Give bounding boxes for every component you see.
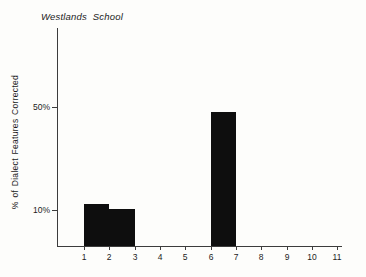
y-tick-label: 10%: [20, 205, 50, 215]
bar: [84, 204, 109, 246]
y-axis-line: [57, 28, 58, 247]
y-axis-label: % of Dialect Features Corrected: [10, 75, 20, 209]
x-tick-mark: [109, 246, 110, 250]
x-tick-label: 11: [329, 252, 345, 262]
x-tick-mark: [287, 246, 288, 250]
x-tick-label: 3: [127, 252, 143, 262]
x-tick-label: 10: [304, 252, 320, 262]
x-tick-mark: [261, 246, 262, 250]
x-tick-mark: [185, 246, 186, 250]
x-tick-label: 6: [203, 252, 219, 262]
bar: [109, 209, 135, 246]
x-tick-mark: [160, 246, 161, 250]
x-tick-label: 5: [177, 252, 193, 262]
x-axis-line: [57, 246, 342, 247]
x-tick-mark: [211, 246, 212, 250]
x-tick-mark: [84, 246, 85, 250]
bar-chart-figure: Westlands School % of Dialect Features C…: [0, 0, 366, 277]
y-tick-label: 50%: [20, 102, 50, 112]
x-tick-label: 1: [76, 252, 92, 262]
x-tick-label: 2: [101, 252, 117, 262]
x-tick-label: 8: [253, 252, 269, 262]
bar: [211, 112, 236, 246]
y-tick-mark: [52, 210, 57, 211]
x-tick-mark: [312, 246, 313, 250]
x-tick-mark: [236, 246, 237, 250]
x-tick-label: 7: [228, 252, 244, 262]
x-tick-mark: [337, 246, 338, 250]
x-tick-mark: [135, 246, 136, 250]
chart-title: Westlands School: [41, 11, 123, 22]
x-tick-label: 9: [279, 252, 295, 262]
y-tick-mark: [52, 107, 57, 108]
x-tick-label: 4: [152, 252, 168, 262]
